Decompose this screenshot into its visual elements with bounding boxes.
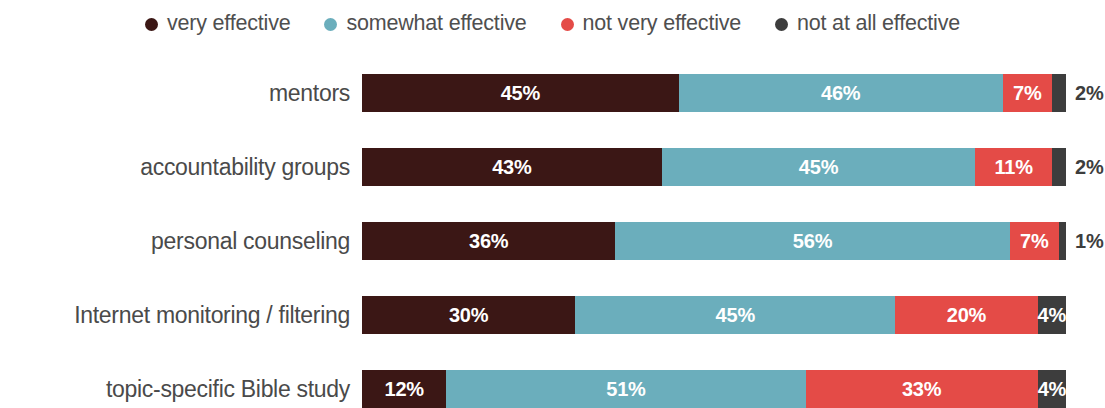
bar-segment[interactable]: 7% bbox=[1003, 74, 1052, 112]
bar-segment[interactable]: 30% bbox=[362, 296, 575, 334]
bar-segment[interactable]: 2% bbox=[1052, 148, 1066, 186]
bar-segment-label: 2% bbox=[1075, 157, 1104, 177]
chart-row: personal counseling36%56%7%1% bbox=[0, 222, 1105, 260]
bar-segment-label: 7% bbox=[1013, 83, 1042, 103]
chart-plot-area: mentors45%46%7%2%accountability groups43… bbox=[0, 48, 1105, 397]
bar-segment[interactable]: 45% bbox=[362, 74, 679, 112]
bar-segment[interactable]: 11% bbox=[975, 148, 1052, 186]
bar-segment-label: 1% bbox=[1075, 231, 1104, 251]
stacked-bar: 30%45%20%4% bbox=[362, 296, 1066, 334]
legend-item-label: somewhat effective bbox=[346, 13, 526, 35]
bar-segment[interactable]: 33% bbox=[806, 370, 1038, 408]
stacked-bar: 36%56%7%1% bbox=[362, 222, 1066, 260]
category-label: topic-specific Bible study bbox=[0, 370, 350, 408]
legend-dot-icon bbox=[561, 18, 574, 31]
chart-legend: very effectivesomewhat effectivenot very… bbox=[0, 4, 1105, 44]
bar-segment[interactable]: 4% bbox=[1038, 296, 1066, 334]
chart-row: Internet monitoring / filtering30%45%20%… bbox=[0, 296, 1105, 334]
legend-dot-icon bbox=[145, 18, 158, 31]
bar-segment-label: 4% bbox=[1038, 305, 1067, 325]
bar-segment[interactable]: 51% bbox=[446, 370, 805, 408]
bar-segment-label: 20% bbox=[947, 305, 986, 325]
bar-segment-label: 36% bbox=[469, 231, 508, 251]
stacked-bar: 12%51%33%4% bbox=[362, 370, 1066, 408]
bar-segment-label: 45% bbox=[501, 83, 540, 103]
legend-item[interactable]: not at all effective bbox=[775, 13, 960, 35]
bar-segment-label: 30% bbox=[449, 305, 488, 325]
bar-segment[interactable]: 7% bbox=[1010, 222, 1059, 260]
bar-segment-label: 4% bbox=[1038, 379, 1067, 399]
bar-segment[interactable]: 56% bbox=[615, 222, 1009, 260]
legend-item[interactable]: not very effective bbox=[561, 13, 742, 35]
bar-segment[interactable]: 20% bbox=[895, 296, 1037, 334]
category-label: accountability groups bbox=[0, 148, 350, 186]
legend-item-label: very effective bbox=[167, 13, 290, 35]
stacked-bar: 45%46%7%2% bbox=[362, 74, 1066, 112]
legend-item[interactable]: very effective bbox=[145, 13, 290, 35]
bar-segment[interactable]: 45% bbox=[575, 296, 895, 334]
bar-segment-label: 43% bbox=[492, 157, 531, 177]
bar-segment[interactable]: 46% bbox=[679, 74, 1003, 112]
bar-segment[interactable]: 2% bbox=[1052, 74, 1066, 112]
bar-segment[interactable]: 1% bbox=[1059, 222, 1066, 260]
bar-segment[interactable]: 12% bbox=[362, 370, 446, 408]
bar-segment-label: 7% bbox=[1020, 231, 1049, 251]
category-label: personal counseling bbox=[0, 222, 350, 260]
legend-item-label: not at all effective bbox=[797, 13, 960, 35]
bar-segment-label: 45% bbox=[716, 305, 755, 325]
legend-item-label: not very effective bbox=[583, 13, 742, 35]
bar-segment[interactable]: 4% bbox=[1038, 370, 1066, 408]
bar-segment-label: 45% bbox=[799, 157, 838, 177]
bar-segment-label: 2% bbox=[1075, 83, 1104, 103]
bar-segment[interactable]: 45% bbox=[662, 148, 976, 186]
stacked-bar: 43%45%11%2% bbox=[362, 148, 1066, 186]
bar-segment-label: 46% bbox=[821, 83, 860, 103]
legend-item[interactable]: somewhat effective bbox=[324, 13, 526, 35]
bar-segment-label: 51% bbox=[606, 379, 645, 399]
legend-dot-icon bbox=[324, 18, 337, 31]
chart-row: topic-specific Bible study12%51%33%4% bbox=[0, 370, 1105, 408]
bar-segment[interactable]: 36% bbox=[362, 222, 615, 260]
bar-segment-label: 56% bbox=[793, 231, 832, 251]
chart-row: accountability groups43%45%11%2% bbox=[0, 148, 1105, 186]
bar-segment-label: 33% bbox=[902, 379, 941, 399]
legend-dot-icon bbox=[775, 18, 788, 31]
bar-segment[interactable]: 43% bbox=[362, 148, 662, 186]
category-label: Internet monitoring / filtering bbox=[0, 296, 350, 334]
bar-segment-label: 12% bbox=[385, 379, 424, 399]
category-label: mentors bbox=[0, 74, 350, 112]
chart-row: mentors45%46%7%2% bbox=[0, 74, 1105, 112]
bar-segment-label: 11% bbox=[995, 157, 1033, 177]
